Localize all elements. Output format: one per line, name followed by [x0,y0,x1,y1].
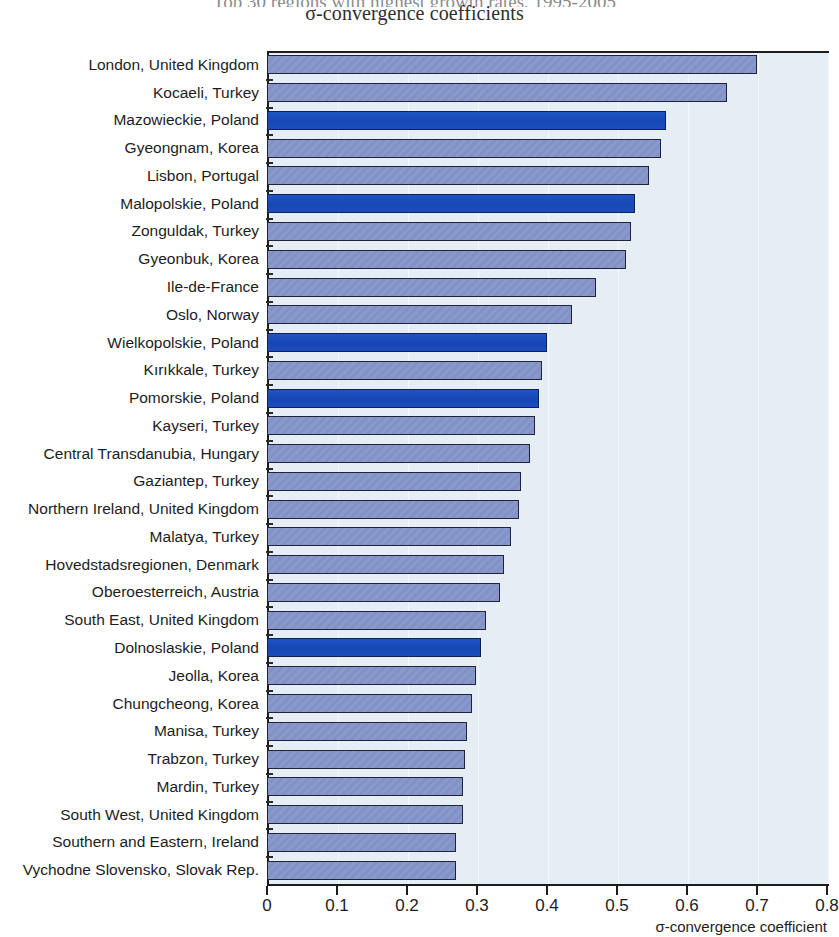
bar[interactable] [267,444,530,463]
bar-row[interactable] [267,305,829,324]
bar-row[interactable] [267,777,829,796]
bar[interactable] [267,694,472,713]
bar[interactable] [267,222,631,241]
category-label: Mardin, Turkey [0,778,259,796]
bar[interactable] [267,278,596,297]
category-label: London, United Kingdom [0,56,259,74]
bar-row[interactable] [267,333,829,352]
bar[interactable] [267,361,542,380]
x-tick-label: 0.3 [465,896,489,916]
bar-row[interactable] [267,250,829,269]
bar[interactable] [267,333,547,352]
bar-row[interactable] [267,583,829,602]
category-label: Gyeongnam, Korea [0,139,259,157]
bar[interactable] [267,500,519,519]
category-label: Gaziantep, Turkey [0,472,259,490]
category-label: Mazowieckie, Poland [0,111,259,129]
bar-row[interactable] [267,444,829,463]
bar[interactable] [267,750,465,769]
bar[interactable] [267,611,486,630]
bar-row[interactable] [267,527,829,546]
x-axis-title: σ-convergence coefficient [655,918,827,935]
x-tick [826,886,828,895]
bar-row[interactable] [267,111,829,130]
bar[interactable] [267,166,649,185]
bar[interactable] [267,777,463,796]
category-label: Kırıkkale, Turkey [0,361,259,379]
x-axis-ticks [0,886,829,896]
bar-row[interactable] [267,389,829,408]
category-tick [266,801,273,803]
bar[interactable] [267,83,727,102]
category-label: Chungcheong, Korea [0,695,259,713]
x-tick-label: 0.6 [675,896,699,916]
bar-row[interactable] [267,83,829,102]
bar-row[interactable] [267,750,829,769]
category-label: Pomorskie, Poland [0,389,259,407]
category-tick [266,773,273,775]
bar-row[interactable] [267,472,829,491]
bar[interactable] [267,139,661,158]
bar-row[interactable] [267,278,829,297]
bar-row[interactable] [267,361,829,380]
bar[interactable] [267,389,539,408]
category-label: Oslo, Norway [0,306,259,324]
bar[interactable] [267,666,476,685]
category-tick [266,745,273,747]
bar[interactable] [267,111,666,130]
category-label: Gyeonbuk, Korea [0,250,259,268]
category-tick [266,440,273,442]
bar-row[interactable] [267,222,829,241]
bar-row[interactable] [267,194,829,213]
category-label: Wielkopolskie, Poland [0,334,259,352]
bar-row[interactable] [267,139,829,158]
bar-row[interactable] [267,611,829,630]
bar[interactable] [267,583,500,602]
category-tick [266,162,273,164]
category-label: Northern Ireland, United Kingdom [0,500,259,518]
bar[interactable] [267,194,635,213]
bar-row[interactable] [267,166,829,185]
category-label: Kayseri, Turkey [0,417,259,435]
bar-row[interactable] [267,555,829,574]
bar[interactable] [267,416,535,435]
bar-row[interactable] [267,722,829,741]
bar[interactable] [267,305,572,324]
x-tick [336,886,338,895]
bar[interactable] [267,805,463,824]
category-tick [266,828,273,830]
bar[interactable] [267,638,481,657]
bar-row[interactable] [267,694,829,713]
bar-row[interactable] [267,833,829,852]
category-tick [266,329,273,331]
x-axis-tick-labels: 00.10.20.30.40.50.60.70.8 [0,896,829,920]
bar[interactable] [267,55,757,74]
bar[interactable] [267,861,456,880]
category-label: Oberoesterreich, Austria [0,583,259,601]
category-label: Vychodne Slovensko, Slovak Rep. [0,861,259,879]
bar[interactable] [267,250,626,269]
bar[interactable] [267,527,511,546]
category-label: Ile-de-France [0,278,259,296]
category-tick [266,468,273,470]
category-tick [266,301,273,303]
category-tick [266,79,273,81]
category-tick [266,412,273,414]
bar[interactable] [267,833,456,852]
bar-row[interactable] [267,666,829,685]
category-label: Central Transdanubia, Hungary [0,445,259,463]
category-label: Trabzon, Turkey [0,750,259,768]
category-tick [266,190,273,192]
bar[interactable] [267,472,521,491]
category-tick [266,579,273,581]
category-axis-labels: London, United KingdomKocaeli, TurkeyMaz… [0,51,259,884]
bar[interactable] [267,555,504,574]
bar-row[interactable] [267,500,829,519]
category-tick [266,273,273,275]
bar-row[interactable] [267,861,829,880]
bar-row[interactable] [267,416,829,435]
bar-row[interactable] [267,638,829,657]
bar-row[interactable] [267,805,829,824]
bar-row[interactable] [267,55,829,74]
bar[interactable] [267,722,467,741]
